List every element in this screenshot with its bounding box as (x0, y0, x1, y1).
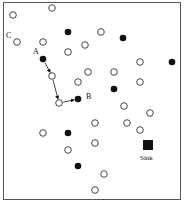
open-node (121, 103, 128, 110)
open-node (75, 79, 82, 86)
open-node (56, 100, 63, 107)
open-node (101, 171, 108, 178)
open-node (137, 127, 144, 134)
path-arrow (45, 63, 50, 73)
open-node (92, 187, 99, 194)
label-c: C (6, 31, 11, 40)
filled-node (65, 29, 72, 36)
open-node (82, 42, 89, 49)
filled-node (111, 86, 118, 93)
open-node (65, 49, 72, 56)
open-node (40, 130, 47, 137)
filled-node (169, 59, 176, 66)
routing-path (45, 63, 74, 102)
open-node (147, 110, 154, 117)
network-diagram: A B C Sink (0, 0, 184, 203)
open-node (124, 120, 131, 127)
filled-node (65, 130, 72, 137)
filled-node (75, 96, 82, 103)
open-node (98, 29, 105, 36)
label-a: A (33, 47, 39, 56)
path-arrow (53, 80, 58, 99)
open-node (14, 39, 21, 46)
open-node (137, 59, 144, 66)
open-node (111, 69, 118, 76)
label-b: B (86, 92, 91, 101)
path-arrow (63, 100, 74, 102)
sensor-nodes (10, 5, 176, 194)
open-node (65, 147, 72, 154)
open-node (92, 140, 99, 147)
filled-node (75, 163, 82, 170)
label-sink: Sink (140, 154, 153, 162)
open-node (49, 5, 56, 12)
open-node (49, 73, 56, 80)
open-node (137, 79, 144, 86)
filled-node (40, 56, 47, 63)
open-node (40, 39, 47, 46)
open-node (10, 12, 17, 19)
filled-node (120, 35, 127, 42)
sink-node (143, 140, 153, 150)
open-node (85, 69, 92, 76)
open-node (92, 120, 99, 127)
